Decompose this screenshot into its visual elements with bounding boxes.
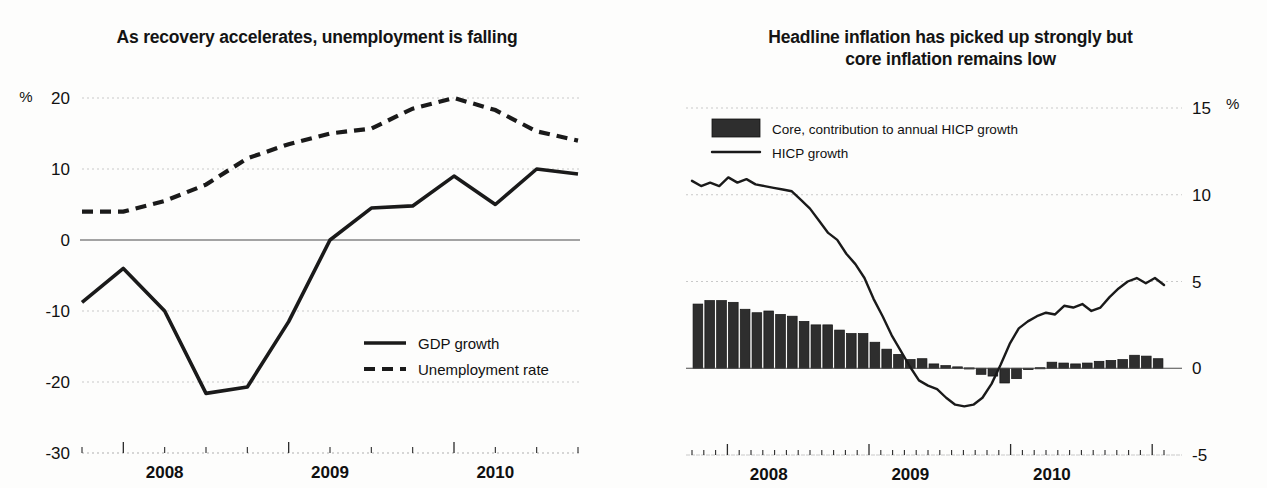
bar-13 [846, 334, 856, 369]
bar-20 [929, 364, 939, 368]
bar-10 [811, 325, 821, 368]
y-tick-label--30: -30 [45, 444, 70, 463]
y-axis-unit-label: % [1226, 95, 1239, 112]
bar-11 [823, 325, 833, 368]
gridlines-left [82, 98, 580, 453]
bar-30 [1047, 362, 1057, 368]
legend-label-1: Unemployment rate [418, 361, 549, 378]
series-line-hicp [692, 177, 1164, 406]
y-axis-unit-label: % [19, 88, 32, 105]
x-tick-label-2009: 2009 [891, 465, 929, 484]
bar-37 [1130, 355, 1140, 368]
series-line-dashed [82, 98, 578, 212]
chart-canvas-right: 151050-5%200820092010Core, contribution … [634, 0, 1267, 488]
bar-1 [705, 301, 715, 369]
bar-2 [717, 301, 727, 369]
chart-canvas-left: 20100-10-20-30%200820092010GDP growthUne… [0, 0, 634, 488]
bar-6 [764, 311, 774, 368]
x-axis-left: 200820092010 [82, 442, 580, 482]
bar-31 [1059, 363, 1069, 368]
bar-33 [1082, 363, 1092, 368]
bar-32 [1071, 364, 1081, 368]
bar-16 [882, 349, 892, 368]
y-axis-right: 151050-5% [1192, 95, 1239, 465]
legend-left: GDP growthUnemployment rate [364, 335, 549, 378]
y-tick-label--20: -20 [45, 373, 70, 392]
x-tick-label-2010: 2010 [1033, 465, 1071, 484]
legend-label-1: HICP growth [772, 146, 848, 161]
bar-24 [976, 368, 986, 374]
bar-series [693, 301, 1163, 383]
bar-27 [1012, 368, 1022, 378]
bar-17 [894, 354, 904, 368]
y-tick-label-5: 5 [1192, 273, 1201, 292]
legend-right: Core, contribution to annual HICP growth… [712, 119, 1018, 161]
legend-label-0: GDP growth [418, 335, 499, 352]
bar-38 [1141, 356, 1151, 368]
bar-26 [1000, 368, 1010, 383]
bar-39 [1153, 359, 1163, 369]
y-tick-label-20: 20 [51, 89, 70, 108]
figure-page: As recovery accelerates, unemployment is… [0, 0, 1267, 488]
legend-label-0: Core, contribution to annual HICP growth [772, 122, 1018, 137]
x-tick-label-2009: 2009 [311, 463, 349, 482]
bar-14 [858, 334, 868, 369]
x-tick-label-2008: 2008 [750, 465, 788, 484]
y-tick-label-15: 15 [1192, 99, 1211, 118]
x-tick-label-2010: 2010 [476, 463, 514, 482]
gridlines-right [686, 108, 1182, 455]
x-axis-right: 200820092010 [688, 444, 1182, 484]
bar-19 [917, 359, 927, 369]
x-tick-label-2008: 2008 [146, 463, 184, 482]
chart-panel-right: Headline inflation has picked up strongl… [634, 0, 1267, 488]
y-tick-label-10: 10 [51, 160, 70, 179]
y-tick-label--5: -5 [1192, 446, 1207, 465]
bar-0 [693, 304, 703, 368]
bar-7 [776, 314, 786, 368]
y-tick-label-0: 0 [61, 231, 70, 250]
bar-8 [787, 316, 797, 368]
bar-15 [870, 342, 880, 368]
bar-4 [740, 309, 750, 368]
chart-panel-left: As recovery accelerates, unemployment is… [0, 0, 634, 488]
y-axis-left: 20100-10-20-30% [19, 88, 70, 463]
bar-35 [1106, 360, 1116, 368]
bar-12 [835, 330, 845, 368]
y-tick-label-0: 0 [1192, 359, 1201, 378]
bar-36 [1118, 360, 1128, 369]
y-tick-label--10: -10 [45, 302, 70, 321]
y-tick-label-10: 10 [1192, 186, 1211, 205]
bar-3 [728, 302, 738, 368]
bar-5 [752, 313, 762, 369]
legend-swatch-bar [712, 119, 760, 137]
bar-34 [1094, 361, 1104, 368]
bar-9 [799, 321, 809, 368]
